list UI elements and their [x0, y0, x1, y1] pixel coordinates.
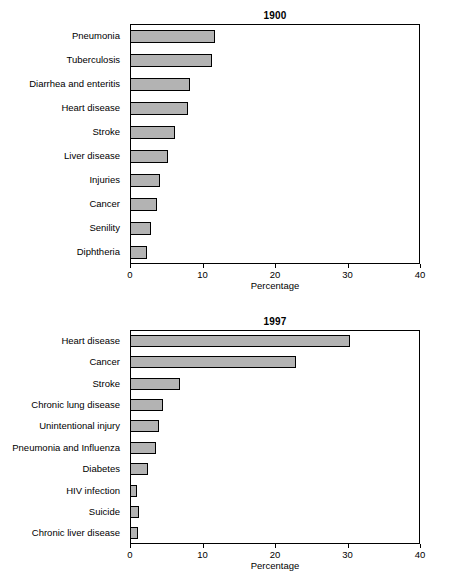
bar [130, 378, 180, 390]
x-tick-label: 0 [115, 550, 145, 560]
chart-panel-1900: 1900 Percentage PneumoniaTuberculosisDia… [0, 0, 462, 300]
x-tick [203, 264, 204, 268]
x-tick-label: 40 [405, 270, 435, 280]
chart-panel-1997: 1997 Percentage Heart diseaseCancerStrok… [0, 300, 462, 588]
x-tick-label: 30 [333, 550, 363, 560]
bar [130, 335, 350, 347]
x-tick [275, 544, 276, 548]
category-label: Senility [0, 223, 125, 233]
category-label: Liver disease [0, 151, 125, 161]
category-label: Cancer [0, 357, 125, 367]
category-label: Unintentional injury [0, 421, 125, 431]
x-tick-label: 40 [405, 550, 435, 560]
bar [130, 30, 215, 43]
x-tick-label: 20 [260, 270, 290, 280]
bar [130, 246, 147, 259]
figure-root: 1900 Percentage PneumoniaTuberculosisDia… [0, 0, 462, 588]
bar [130, 78, 190, 91]
category-label: Injuries [0, 175, 125, 185]
category-label: Chronic liver disease [0, 528, 125, 538]
bar [130, 102, 188, 115]
x-axis-title: Percentage [130, 561, 420, 571]
x-tick [203, 544, 204, 548]
category-label: HIV infection [0, 486, 125, 496]
x-tick [348, 264, 349, 268]
x-tick [348, 544, 349, 548]
bar [130, 126, 175, 139]
x-tick [275, 264, 276, 268]
bar [130, 463, 148, 475]
category-label: Chronic lung disease [0, 400, 125, 410]
bar [130, 527, 138, 539]
bar [130, 174, 160, 187]
chart-title: 1997 [130, 316, 420, 327]
category-label: Cancer [0, 199, 125, 209]
x-tick-label: 0 [115, 270, 145, 280]
x-tick [130, 544, 131, 548]
bar [130, 222, 151, 235]
chart-title: 1900 [130, 10, 420, 21]
category-label: Suicide [0, 507, 125, 517]
bar [130, 442, 156, 454]
category-label: Stroke [0, 127, 125, 137]
x-tick [130, 264, 131, 268]
bar [130, 150, 168, 163]
x-tick-label: 10 [188, 550, 218, 560]
x-axis-title: Percentage [130, 281, 420, 291]
x-tick-label: 10 [188, 270, 218, 280]
category-label: Diabetes [0, 464, 125, 474]
category-label: Pneumonia [0, 31, 125, 41]
bar [130, 198, 157, 211]
category-label: Pneumonia and Influenza [0, 443, 125, 453]
x-tick [420, 264, 421, 268]
bar [130, 399, 163, 411]
x-tick-label: 30 [333, 270, 363, 280]
category-label: Heart disease [0, 103, 125, 113]
bar [130, 506, 139, 518]
category-label: Tuberculosis [0, 55, 125, 65]
category-label: Stroke [0, 379, 125, 389]
bar [130, 356, 296, 368]
category-label: Diphtheria [0, 247, 125, 257]
bar [130, 420, 159, 432]
bar [130, 54, 212, 67]
category-label: Diarrhea and enteritis [0, 79, 125, 89]
bar [130, 485, 137, 497]
x-tick-label: 20 [260, 550, 290, 560]
category-label: Heart disease [0, 336, 125, 346]
x-tick [420, 544, 421, 548]
